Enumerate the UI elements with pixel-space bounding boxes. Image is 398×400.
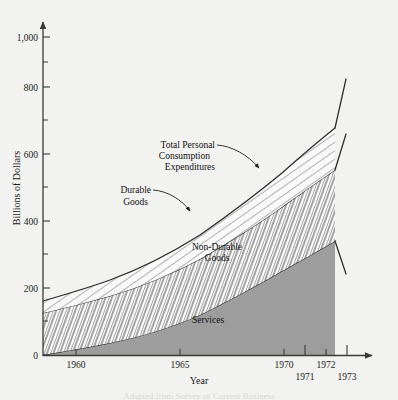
y-axis-title: Billions of Dollars xyxy=(11,151,22,226)
x-tick-label-1973: 1973 xyxy=(338,372,357,382)
chart-figure: 0 200 400 600 800 1,000 1960 1965 1970 1… xyxy=(0,0,398,400)
curve-extensions xyxy=(335,79,346,274)
x-tick-label-1971: 1971 xyxy=(296,372,315,382)
figure-caption: Adapted from Survey of Current Business xyxy=(0,391,398,400)
y-tick-label-200: 200 xyxy=(24,284,39,294)
band-label-services-line1: Services xyxy=(192,315,224,325)
y-tick-label-0: 0 xyxy=(33,351,38,361)
y-tick-label-1000: 1,000 xyxy=(17,33,39,43)
x-tick-label-1960: 1960 xyxy=(67,360,86,370)
annotation-durable-goods: Durable Goods xyxy=(120,185,190,211)
y-tick-label-800: 800 xyxy=(24,83,39,93)
annotation-total-personal-consumption: Total Personal Consumption Expenditures xyxy=(159,140,259,172)
y-tick-label-400: 400 xyxy=(24,217,39,227)
x-axis-title: Year xyxy=(190,375,209,386)
annotation-total-line2: Consumption xyxy=(159,151,210,161)
annotation-total-line1: Total Personal xyxy=(161,140,216,150)
x-tick-label-1972: 1972 xyxy=(317,360,336,370)
annotation-durable-line1: Durable xyxy=(120,185,151,195)
x-tick-label-1970: 1970 xyxy=(275,360,294,370)
stacked-area-chart: 0 200 400 600 800 1,000 1960 1965 1970 1… xyxy=(0,0,398,400)
band-label-services: Services xyxy=(192,315,224,325)
annotation-durable-line2: Goods xyxy=(123,197,148,207)
band-label-nondurable-line2: Goods xyxy=(205,253,230,263)
annotation-total-line3: Expenditures xyxy=(165,162,215,172)
x-tick-label-1965: 1965 xyxy=(171,360,190,370)
y-tick-label-600: 600 xyxy=(24,150,39,160)
band-label-nondurable-line1: Non-Durable xyxy=(192,242,242,252)
